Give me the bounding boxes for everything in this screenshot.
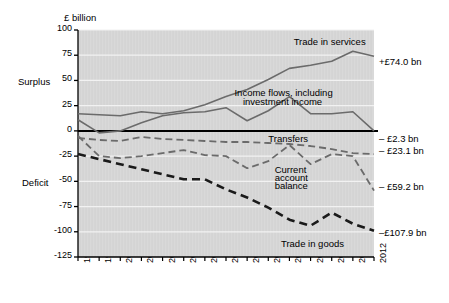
annotation-trade-in-services: Trade in services — [294, 36, 366, 47]
annotation-current-account-balance-3: balance — [275, 180, 308, 191]
annotation-income-flows-2: investment income — [243, 96, 322, 107]
end-trade-in-services: +£74.0 bn — [379, 56, 422, 67]
annotation-trade-in-goods: Trade in goods — [281, 238, 344, 249]
end-current-account: – £23.1 bn — [379, 145, 424, 156]
end-trade-in-goods: –£107.9 bn — [379, 227, 427, 238]
end-income-flows: – £59.2 bn — [379, 181, 424, 192]
annotation-transfers: Transfers — [268, 133, 308, 144]
end-transfers: – £2.3 bn — [379, 133, 419, 144]
chart-container: £ billion Surplus Deficit 1007550250-25-… — [0, 0, 449, 303]
